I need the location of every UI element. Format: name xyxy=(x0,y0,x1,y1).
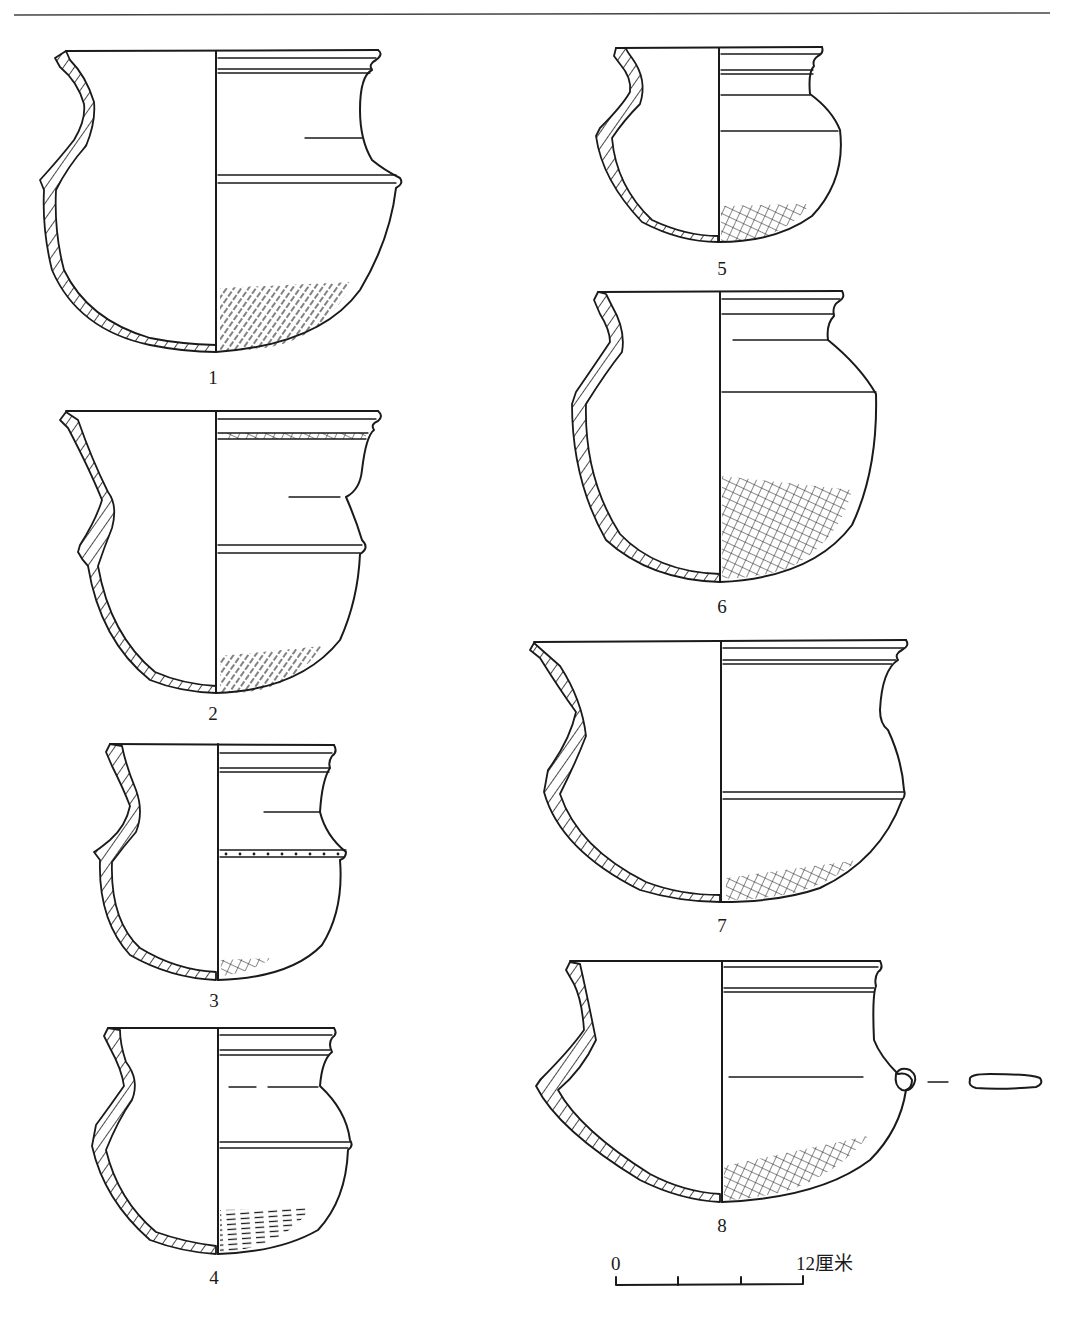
vessel-figure-4: 4 xyxy=(92,1028,352,1288)
vessel-figure-1: 1 xyxy=(40,50,401,388)
scale-bar: 0 12厘米 xyxy=(611,1253,853,1285)
pottery-plate: 1 2 3 xyxy=(0,0,1079,1326)
vessel-figure-5: 5 xyxy=(596,47,841,279)
figure-label-8: 8 xyxy=(717,1215,727,1236)
figure-label-2: 2 xyxy=(208,703,218,724)
figure-label-3: 3 xyxy=(209,990,219,1011)
figure-label-7: 7 xyxy=(717,915,727,936)
scale-end-label: 12厘米 xyxy=(796,1253,853,1274)
vessel-figure-2: 2 xyxy=(60,411,381,724)
vessel-figure-8: 8 xyxy=(536,961,1041,1236)
figure-label-5: 5 xyxy=(717,258,727,279)
vessel-figure-3: 3 xyxy=(94,744,346,1011)
vessel-figure-6: 6 xyxy=(572,291,876,617)
shoulder-notches xyxy=(225,853,340,856)
figure-label-1: 1 xyxy=(208,367,218,388)
figure-label-4: 4 xyxy=(209,1267,219,1288)
vessel-figure-7: 7 xyxy=(530,640,907,936)
figure-label-6: 6 xyxy=(717,596,727,617)
scale-start-label: 0 xyxy=(611,1253,621,1274)
lug-cross-section xyxy=(970,1074,1042,1089)
header-rule xyxy=(14,13,1050,15)
